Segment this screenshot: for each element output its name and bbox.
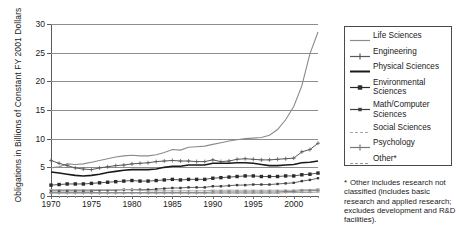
series-marker <box>74 182 77 185</box>
series-marker <box>195 160 199 164</box>
series-marker <box>292 174 295 177</box>
series-marker <box>195 186 197 188</box>
y-tick-label: 20 <box>19 76 45 86</box>
series-marker <box>163 187 165 189</box>
series-marker <box>73 166 77 170</box>
series-marker <box>130 162 134 166</box>
x-tick-minor-mark <box>75 196 76 198</box>
series-marker <box>163 178 166 181</box>
series-line <box>51 32 318 168</box>
x-tick-label: 2000 <box>284 199 303 209</box>
series-marker <box>130 191 134 195</box>
legend-item[interactable]: Life Sciences <box>349 31 448 43</box>
legend-marker-icon <box>349 155 371 166</box>
series-marker <box>309 179 311 181</box>
legend-label: Psychology <box>371 138 415 148</box>
series-marker <box>81 167 85 171</box>
series-marker <box>98 166 102 170</box>
series-marker <box>204 186 206 188</box>
series-marker <box>114 180 117 183</box>
series-marker <box>293 182 295 184</box>
series-marker <box>155 188 157 190</box>
series-marker <box>130 179 133 182</box>
series-marker <box>260 183 262 185</box>
series-marker <box>195 178 198 181</box>
x-tick-minor-mark <box>59 196 60 198</box>
data-series-group <box>51 24 318 196</box>
series-marker <box>219 176 222 179</box>
series-marker <box>122 163 126 167</box>
series-marker <box>243 174 246 177</box>
footnote: * Other includes research not classified… <box>344 178 458 224</box>
y-tick-label: 25 <box>19 48 45 58</box>
legend-item[interactable]: Engineering <box>349 47 448 59</box>
x-tick-minor-mark <box>189 196 190 198</box>
series-marker <box>284 182 286 184</box>
series-marker <box>244 184 246 186</box>
x-tick-minor-mark <box>124 196 125 198</box>
legend-item[interactable]: Environmental Sciences <box>349 78 448 97</box>
series-marker <box>187 186 189 188</box>
legend-marker-icon <box>349 63 371 74</box>
series-marker <box>203 160 207 164</box>
y-tick-label: 15 <box>19 105 45 115</box>
series-marker <box>252 183 254 185</box>
series-marker <box>211 158 215 162</box>
footnote-star: * <box>344 178 347 187</box>
x-tick-minor-mark <box>83 196 84 198</box>
legend-item[interactable]: Math/Computer Sciences <box>349 100 448 119</box>
series-marker <box>138 161 142 165</box>
legend-marker-icon <box>349 101 371 112</box>
legend-label: Physical Sciences <box>371 62 439 72</box>
y-tick-label: 30 <box>19 19 45 29</box>
x-tick-minor-mark <box>310 196 311 198</box>
x-tick-label: 1980 <box>122 199 141 209</box>
legend-label: Other* <box>371 154 397 164</box>
series-marker <box>236 184 238 186</box>
series-line <box>51 161 318 176</box>
series-marker <box>284 174 287 177</box>
series-marker <box>162 159 166 163</box>
legend-item[interactable]: Other* <box>349 154 448 166</box>
series-marker <box>179 178 182 181</box>
y-tick-label: 5 <box>19 162 45 172</box>
x-tick-label: 1990 <box>203 199 222 209</box>
series-marker <box>317 177 319 179</box>
series-marker <box>146 161 150 165</box>
series-marker <box>308 173 311 176</box>
series-marker <box>187 159 191 163</box>
series-marker <box>138 191 142 195</box>
series-marker <box>138 179 141 182</box>
x-tick-minor-mark <box>245 196 246 198</box>
x-tick-minor-mark <box>140 196 141 198</box>
series-marker <box>284 157 288 161</box>
series-marker <box>114 164 118 168</box>
series-marker <box>82 182 85 185</box>
y-tick-label: 10 <box>19 134 45 144</box>
legend-label: Life Sciences <box>371 31 422 41</box>
x-tick-minor-mark <box>221 196 222 198</box>
legend-item[interactable]: Social Sciences <box>349 123 448 135</box>
series-marker <box>260 175 263 178</box>
series-marker <box>301 180 303 182</box>
legend-marker-icon <box>349 48 371 59</box>
series-marker <box>98 191 102 195</box>
series-marker <box>276 175 279 178</box>
legend-marker-icon <box>349 79 371 90</box>
series-marker <box>235 157 239 161</box>
legend-item[interactable]: Psychology <box>349 138 448 150</box>
x-tick-minor-mark <box>229 196 230 198</box>
x-tick-minor-mark <box>205 196 206 198</box>
x-tick-label: 1970 <box>42 199 61 209</box>
series-marker <box>211 177 214 180</box>
series-marker <box>268 183 270 185</box>
plot-region <box>51 24 318 196</box>
x-tick-minor-mark <box>156 196 157 198</box>
x-tick-label: 1985 <box>163 199 182 209</box>
chart-area: Obligations in Billions of Constant FY 2… <box>0 0 330 252</box>
legend-label: Engineering <box>371 47 417 57</box>
legend-item[interactable]: Physical Sciences <box>349 62 448 74</box>
series-marker <box>300 173 303 176</box>
x-tick-label: 1975 <box>82 199 101 209</box>
legend-label: Math/Computer Sciences <box>371 100 448 119</box>
